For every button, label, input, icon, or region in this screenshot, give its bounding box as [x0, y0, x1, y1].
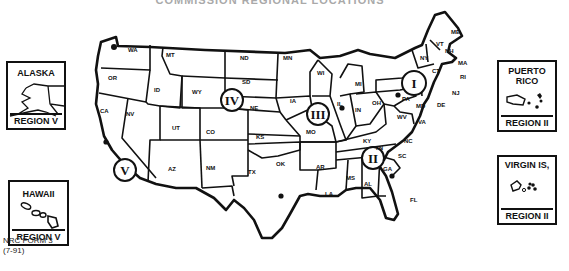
- state-MN: MN: [283, 55, 292, 61]
- state-IA: IA: [290, 98, 297, 104]
- state-SD: SD: [242, 79, 251, 85]
- state-VT: VT: [436, 41, 444, 47]
- state-WV: WV: [397, 114, 407, 120]
- form-id: NRC FORM 3: [3, 236, 53, 246]
- state-NC: NC: [404, 138, 413, 144]
- office-dot-region-IV: [278, 193, 283, 198]
- state-VA: VA: [418, 119, 427, 125]
- region-label-II: II: [368, 151, 378, 166]
- state-NM: NM: [206, 165, 215, 171]
- state-CO: CO: [206, 129, 215, 135]
- office-dot-region-I: [395, 92, 400, 97]
- us-regions-map: I II III IV V WA OR CA NV ID MT WY UT CO…: [0, 0, 569, 271]
- state-GA: GA: [383, 166, 393, 172]
- state-NH: NH: [445, 48, 454, 54]
- state-DE: DE: [437, 102, 445, 108]
- state-FL: FL: [410, 197, 418, 203]
- office-dot-region-V: [103, 139, 108, 144]
- state-NY: NY: [420, 55, 428, 61]
- state-OH: OH: [372, 100, 381, 106]
- state-WA: WA: [128, 47, 138, 53]
- form-date: (7-91): [3, 246, 53, 256]
- state-OK: OK: [276, 161, 286, 167]
- state-RI: RI: [460, 74, 466, 80]
- region-label-IV: IV: [225, 93, 240, 108]
- state-MS: MS: [346, 175, 355, 181]
- state-CT: CT: [432, 68, 440, 74]
- state-WI: WI: [317, 70, 325, 76]
- state-SC: SC: [398, 153, 407, 159]
- state-MI: MI: [355, 81, 362, 87]
- state-MT: MT: [166, 52, 175, 58]
- state-ME: ME: [451, 29, 460, 35]
- state-UT: UT: [172, 125, 180, 131]
- state-MA: MA: [458, 60, 468, 66]
- region-label-I: I: [411, 76, 416, 91]
- state-NE: NE: [250, 105, 258, 111]
- state-ID: ID: [154, 87, 161, 93]
- state-NV: NV: [126, 111, 134, 117]
- state-KY: KY: [363, 138, 371, 144]
- state-NJ: NJ: [452, 90, 460, 96]
- region-label-V: V: [120, 163, 130, 178]
- state-IL: IL: [337, 101, 343, 107]
- state-AL: AL: [364, 181, 372, 187]
- state-WY: WY: [192, 89, 202, 95]
- state-AZ: AZ: [168, 166, 176, 172]
- state-ND: ND: [240, 55, 249, 61]
- state-TN: TN: [375, 145, 383, 151]
- state-CA: CA: [100, 108, 109, 114]
- form-number: NRC FORM 3 (7-91): [3, 236, 53, 256]
- state-MO: MO: [306, 129, 316, 135]
- seattle-dot: [111, 44, 117, 50]
- us-outline: [96, 12, 462, 238]
- state-MD: MD: [416, 103, 426, 109]
- state-AR: AR: [316, 164, 325, 170]
- state-IN: IN: [355, 107, 361, 113]
- state-TX: TX: [248, 169, 256, 175]
- state-KS: KS: [256, 134, 264, 140]
- office-dot-region-II: [389, 173, 394, 178]
- state-OR: OR: [108, 75, 118, 81]
- state-PA: PA: [402, 96, 411, 102]
- state-LA: LA: [325, 191, 334, 197]
- region-label-III: III: [310, 107, 325, 122]
